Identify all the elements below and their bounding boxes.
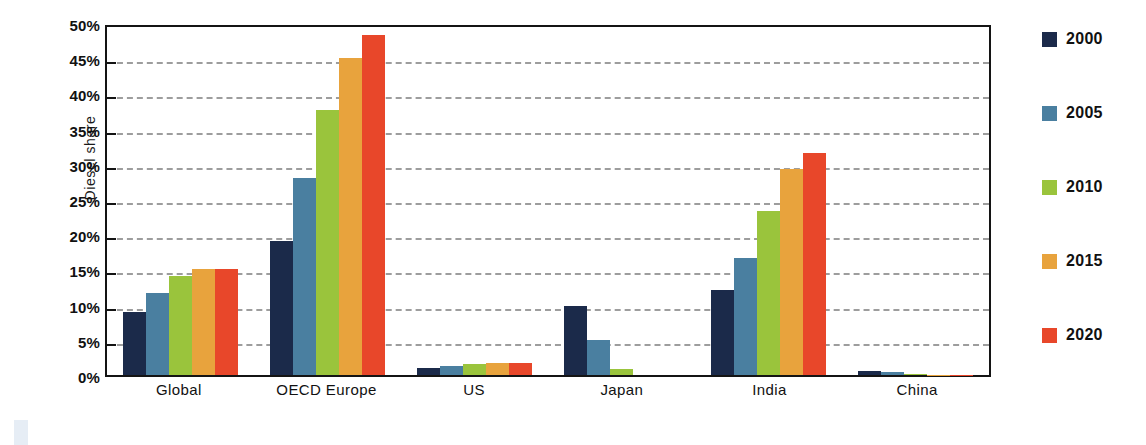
bar-group — [107, 27, 254, 375]
bar — [486, 363, 509, 375]
y-tick-label: 30% — [40, 157, 100, 174]
bar — [881, 372, 904, 375]
bar-group — [842, 27, 989, 375]
bar — [362, 35, 385, 375]
bar — [293, 178, 316, 375]
bar-group — [401, 27, 548, 375]
legend-swatch-icon — [1042, 180, 1057, 195]
x-tick-label: India — [696, 381, 844, 411]
bar — [734, 258, 757, 375]
x-tick-label: OECD Europe — [253, 381, 401, 411]
legend-item-2005[interactable]: 2005 — [1042, 104, 1103, 122]
bar-groups — [107, 27, 989, 375]
diesel-share-bar-chart: Diesel share 50%45%40%35%30%25%20%15%10%… — [0, 0, 1146, 445]
y-axis-tick-labels: 50%45%40%35%30%25%20%15%10%5%0% — [40, 25, 100, 377]
bar-group — [695, 27, 842, 375]
x-tick-label: US — [400, 381, 548, 411]
x-tick-label: China — [843, 381, 991, 411]
bar — [339, 58, 362, 375]
y-tick-label: 45% — [40, 52, 100, 69]
y-tick-label: 20% — [40, 228, 100, 245]
bar — [463, 364, 486, 375]
bar — [270, 241, 293, 375]
x-tick-label: Japan — [548, 381, 696, 411]
y-tick-label: 15% — [40, 263, 100, 280]
y-tick-label: 0% — [40, 369, 100, 386]
plot-area — [105, 25, 991, 377]
bar — [169, 276, 192, 375]
bar — [564, 306, 587, 375]
y-tick-label: 10% — [40, 298, 100, 315]
legend-item-2000[interactable]: 2000 — [1042, 30, 1103, 48]
bar — [610, 369, 633, 375]
legend-label: 2000 — [1066, 30, 1103, 48]
bar-group — [548, 27, 695, 375]
bar — [123, 312, 146, 375]
legend-label: 2010 — [1066, 178, 1103, 196]
scan-artifact — [14, 420, 28, 445]
bar — [587, 340, 610, 375]
bar — [316, 110, 339, 375]
legend-label: 2015 — [1066, 252, 1103, 270]
bar — [803, 153, 826, 375]
y-tick-label: 40% — [40, 87, 100, 104]
bar — [192, 269, 215, 375]
bar — [904, 374, 927, 375]
x-tick-label: Global — [105, 381, 253, 411]
bar — [780, 169, 803, 375]
bar — [215, 269, 238, 375]
y-tick-label: 5% — [40, 333, 100, 350]
legend-label: 2005 — [1066, 104, 1103, 122]
bar — [711, 290, 734, 375]
legend-item-2020[interactable]: 2020 — [1042, 326, 1103, 344]
y-tick-label: 35% — [40, 122, 100, 139]
legend: 20002005201020152020 — [1042, 22, 1142, 382]
bar-group — [254, 27, 401, 375]
legend-swatch-icon — [1042, 106, 1057, 121]
legend-item-2015[interactable]: 2015 — [1042, 252, 1103, 270]
bar — [146, 293, 169, 375]
bar — [417, 368, 440, 375]
legend-item-2010[interactable]: 2010 — [1042, 178, 1103, 196]
y-tick-label: 50% — [40, 17, 100, 34]
bar — [509, 363, 532, 375]
bar — [757, 211, 780, 375]
bar — [440, 366, 463, 375]
legend-label: 2020 — [1066, 326, 1103, 344]
legend-swatch-icon — [1042, 328, 1057, 343]
bar — [858, 371, 881, 375]
y-tick-label: 25% — [40, 193, 100, 210]
legend-swatch-icon — [1042, 32, 1057, 47]
legend-swatch-icon — [1042, 254, 1057, 269]
x-axis-category-labels: GlobalOECD EuropeUSJapanIndiaChina — [105, 381, 991, 411]
